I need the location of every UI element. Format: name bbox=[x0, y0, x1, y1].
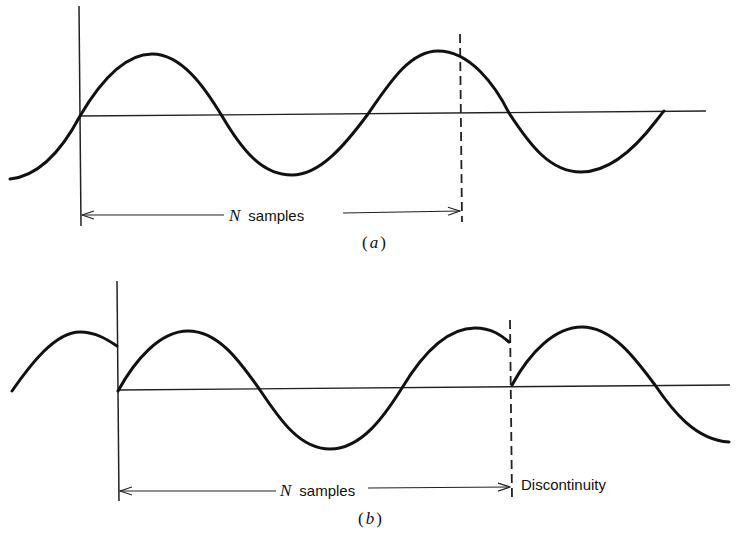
figure-a-end-marker-dashed bbox=[460, 34, 462, 222]
n-symbol: N bbox=[228, 206, 242, 225]
figure-b-dimension-arrow-right bbox=[368, 487, 510, 488]
caption-letter-b: b bbox=[366, 509, 375, 528]
figure-a-dimension-arrow-right bbox=[343, 211, 460, 213]
samples-text: samples bbox=[299, 482, 355, 499]
discontinuity-label: Discontinuity bbox=[521, 476, 607, 493]
figure-b: N samples Discontinuity (b) bbox=[12, 281, 730, 528]
samples-text: samples bbox=[248, 207, 304, 224]
figure-b-dimension-label: N samples bbox=[279, 481, 355, 500]
figure-a-caption: (a) bbox=[362, 233, 386, 252]
figure-a-sine-wave bbox=[10, 51, 664, 179]
figure-b-post-discontinuity-segment bbox=[512, 327, 729, 442]
figure-b-time-axis bbox=[118, 385, 730, 390]
figure-a: N samples (a) bbox=[10, 6, 706, 252]
figure-a-dimension-label: N samples bbox=[228, 206, 304, 225]
figure-a-time-axis bbox=[80, 111, 706, 116]
figure-b-prior-segment bbox=[12, 332, 117, 391]
caption-letter-a: a bbox=[370, 233, 379, 252]
n-symbol: N bbox=[279, 481, 293, 500]
figure-b-caption: (b) bbox=[358, 509, 382, 528]
figure-canvas: N samples (a) N samples Discontinuity (b… bbox=[0, 0, 745, 546]
figure-b-discontinuity-marker-dashed bbox=[510, 320, 512, 498]
